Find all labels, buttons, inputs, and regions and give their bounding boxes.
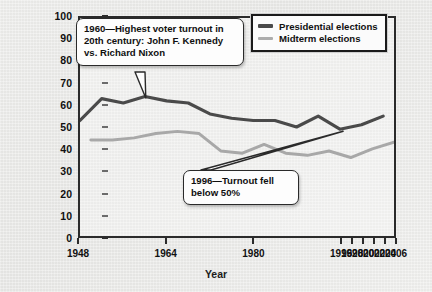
annotation-text-1960: 1960—Highest voter turnout in 20th centu… (84, 23, 236, 60)
annotation-text-1996: 1996—Turnout fell below 50% (191, 175, 291, 199)
callout-pointer-1960 (135, 72, 146, 98)
annotation-callout-1996: 1996—Turnout fell below 50% (183, 170, 299, 205)
voter-turnout-chart: Percentage 0102030405060708090100 194819… (0, 0, 432, 292)
annotation-callout-1960: 1960—Highest voter turnout in 20th centu… (76, 18, 244, 66)
callout-pointer-1996 (201, 131, 343, 170)
